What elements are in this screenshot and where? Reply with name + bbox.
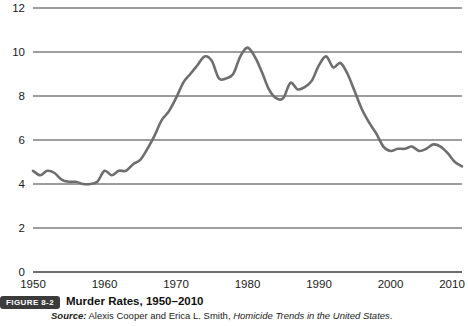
murder-rate-line [33, 48, 462, 185]
y-axis-tick-label: 0 [19, 266, 25, 278]
murder-rates-line-chart: 024681012 1950196019701980199020002010 [0, 0, 468, 292]
x-axis-tick-label: 2010 [439, 278, 465, 290]
caption-title-row: FIGURE 8-2 Murder Rates, 1950–2010 [0, 294, 468, 309]
source-publication: Homicide Trends in the United States [233, 310, 390, 321]
chart-plot-area: 024681012 1950196019701980199020002010 [0, 0, 468, 292]
source-label: Source: [51, 310, 86, 321]
figure-container: 024681012 1950196019701980199020002010 F… [0, 0, 468, 326]
y-axis-tick-label: 4 [19, 178, 26, 190]
figure-caption: FIGURE 8-2 Murder Rates, 1950–2010 Sourc… [0, 294, 468, 322]
figure-number-badge: FIGURE 8-2 [0, 296, 60, 309]
x-axis-tick-label: 1980 [235, 278, 261, 290]
figure-source-line: Source: Alexis Cooper and Erica L. Smith… [51, 310, 468, 322]
x-axis-tick-label: 1970 [163, 278, 189, 290]
source-authors: Alexis Cooper and Erica L. Smith, [86, 310, 233, 321]
y-axis-tick-label: 8 [19, 90, 25, 102]
y-axis-tick-label: 2 [19, 222, 25, 234]
figure-title: Murder Rates, 1950–2010 [66, 294, 203, 308]
x-axis-tick-label: 1950 [20, 278, 46, 290]
x-axis-tick-label: 2000 [378, 278, 404, 290]
y-axis-tick-label: 10 [12, 46, 25, 58]
source-period: . [390, 310, 393, 321]
y-axis-tick-labels: 024681012 [12, 2, 25, 278]
y-axis-tick-label: 6 [19, 134, 25, 146]
x-axis-tick-label: 1960 [92, 278, 118, 290]
x-axis-tick-labels: 1950196019701980199020002010 [20, 278, 465, 290]
x-axis-tick-label: 1990 [306, 278, 332, 290]
y-axis-tick-label: 12 [12, 2, 25, 14]
